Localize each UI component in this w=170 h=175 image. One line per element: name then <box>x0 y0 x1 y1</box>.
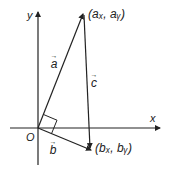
vector-c-label: → c <box>89 72 99 89</box>
point-a-label: (aₓ, aᵧ) <box>88 8 125 20</box>
vector-b-line <box>38 128 91 150</box>
x-axis-label: x <box>150 113 156 124</box>
origin-label: O <box>26 132 35 143</box>
vector-a-label: → a <box>49 53 59 70</box>
vector-a-line <box>38 14 83 128</box>
point-b-label: (bₓ, bᵧ) <box>95 142 132 154</box>
y-axis-label: y <box>27 10 33 21</box>
vector-b-label: → b <box>48 139 58 156</box>
vector-diagram: y x O (aₓ, aᵧ) (bₓ, bᵧ) → a → c → b <box>0 0 170 175</box>
diagram-graphics <box>0 0 170 175</box>
